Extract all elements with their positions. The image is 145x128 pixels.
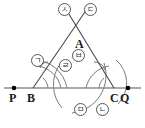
angle-arc-at-C bbox=[99, 78, 104, 88]
circled-label-giyeok: ㄱ bbox=[31, 54, 44, 67]
point-label-Q: Q bbox=[120, 92, 129, 104]
circled-label-nieun: ㄴ bbox=[96, 103, 109, 116]
circled-label-rieul: ㄹ bbox=[59, 59, 72, 72]
point-label-P: P bbox=[9, 92, 16, 104]
point-dot-P bbox=[12, 86, 17, 91]
angle-arc-at-B bbox=[43, 78, 48, 88]
point-label-B: B bbox=[27, 92, 35, 104]
circled-label-mieum: ㅁ bbox=[74, 103, 87, 116]
geometry-figure: P B C Q A ㄱ ㄷ ㅅ ㄹ ㅂ ㅁ ㄴ bbox=[0, 0, 145, 128]
circled-label-digeut: ㄷ bbox=[84, 3, 97, 16]
figure-canvas bbox=[0, 0, 145, 128]
circled-label-bieup: ㅂ bbox=[72, 49, 85, 62]
ray-C-through-A bbox=[64, 6, 114, 88]
point-dot-Q bbox=[126, 86, 131, 91]
point-label-C: C bbox=[110, 92, 119, 104]
circled-label-siot: ㅅ bbox=[58, 3, 71, 16]
